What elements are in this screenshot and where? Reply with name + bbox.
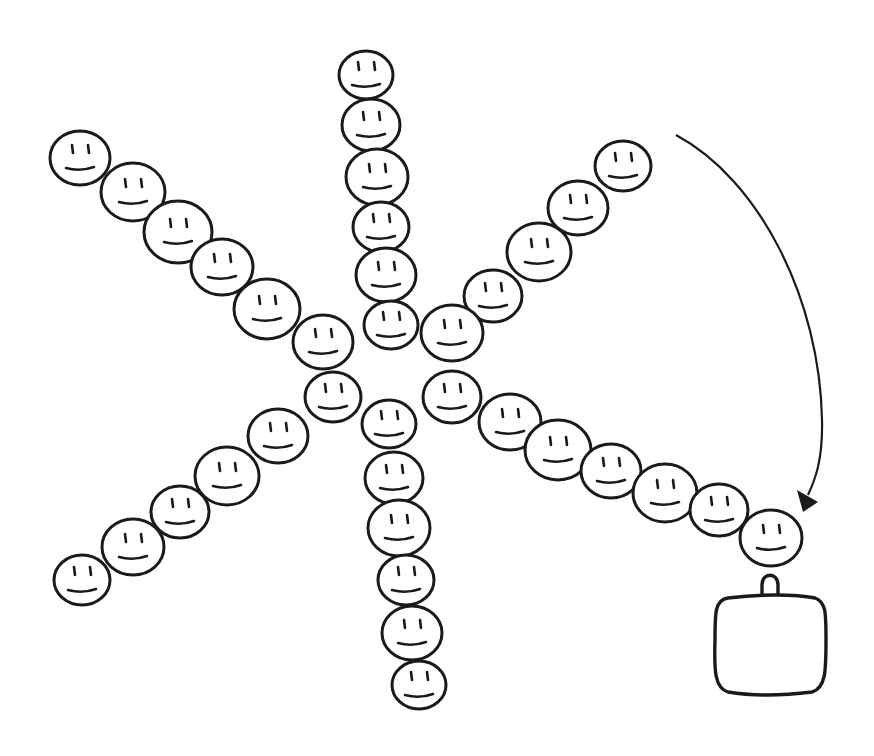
eye xyxy=(125,179,126,187)
eye xyxy=(383,312,384,320)
smiley-face-icon xyxy=(346,149,408,205)
smiley-face-icon xyxy=(234,279,300,339)
eye xyxy=(444,320,445,328)
eye xyxy=(531,239,532,247)
eye xyxy=(172,499,173,507)
eye xyxy=(391,515,392,523)
eye xyxy=(325,384,326,392)
eye xyxy=(631,153,632,161)
eye xyxy=(170,219,171,227)
eye xyxy=(398,567,399,575)
eye xyxy=(404,620,405,628)
sketch-canvas xyxy=(0,0,874,756)
smiley-face-icon xyxy=(356,248,416,302)
eye xyxy=(397,411,398,419)
eye xyxy=(550,437,551,445)
eye xyxy=(657,480,658,488)
arm-lower-left xyxy=(54,372,361,605)
smiley-face-icon xyxy=(633,464,697,522)
eye xyxy=(74,567,75,575)
smiley-face-icon xyxy=(54,555,110,605)
smiley-face-icon xyxy=(50,131,110,185)
arm-upper-left xyxy=(50,131,353,369)
eye xyxy=(420,620,421,628)
eye xyxy=(603,458,604,466)
eye xyxy=(188,499,189,507)
smiley-face-icon xyxy=(102,519,164,575)
eye xyxy=(763,525,764,533)
eye xyxy=(586,195,587,203)
eye xyxy=(141,179,142,187)
arm-up xyxy=(339,51,418,349)
eye xyxy=(427,672,428,680)
eye xyxy=(460,320,461,328)
eye xyxy=(711,497,712,505)
eye xyxy=(727,497,728,505)
eye xyxy=(341,384,342,392)
smiley-face-icon xyxy=(595,141,651,191)
smiley-face-icon xyxy=(378,555,434,605)
eye xyxy=(374,62,375,70)
eye xyxy=(547,239,548,247)
eye xyxy=(141,534,142,542)
eye xyxy=(619,458,620,466)
eye xyxy=(444,384,445,392)
arm-lower-right xyxy=(423,371,802,566)
eye xyxy=(518,409,519,417)
smiley-face-icon xyxy=(423,371,481,423)
eye xyxy=(407,515,408,523)
eye xyxy=(394,262,395,270)
smiley-face-icon xyxy=(248,409,308,463)
eye xyxy=(399,312,400,320)
smiley-face-icon xyxy=(690,484,748,536)
smiley-star xyxy=(50,51,802,709)
eye xyxy=(402,465,403,473)
eye xyxy=(414,567,415,575)
smiley-face-icon xyxy=(392,661,446,709)
eye xyxy=(363,112,364,120)
arm-upper-right xyxy=(421,141,651,361)
eye xyxy=(378,262,379,270)
smiley-face-icon xyxy=(342,99,400,151)
eye xyxy=(369,164,370,172)
eye xyxy=(72,145,73,153)
eye xyxy=(275,296,276,304)
eye xyxy=(90,567,91,575)
eye xyxy=(88,145,89,153)
eye xyxy=(358,62,359,70)
smiley-face-icon xyxy=(353,202,409,252)
curved-arrow xyxy=(676,135,822,495)
eye xyxy=(411,672,412,680)
eye xyxy=(270,423,271,431)
eye xyxy=(331,329,332,337)
eye xyxy=(615,153,616,161)
eye xyxy=(485,283,486,291)
eye xyxy=(566,437,567,445)
smiley-face-icon xyxy=(364,301,418,349)
smiley-face-icon xyxy=(368,500,430,556)
eye xyxy=(779,525,780,533)
eye xyxy=(385,164,386,172)
eye xyxy=(230,254,231,262)
eye xyxy=(125,534,126,542)
eye xyxy=(214,254,215,262)
arrow-head-icon xyxy=(797,490,818,512)
eye xyxy=(379,112,380,120)
eye xyxy=(570,195,571,203)
eye xyxy=(373,214,374,222)
smiley-face-icon xyxy=(382,606,442,660)
eye xyxy=(460,384,461,392)
smiley-face-icon xyxy=(421,305,483,361)
eye xyxy=(502,409,503,417)
eye xyxy=(386,465,387,473)
eye xyxy=(673,480,674,488)
eye xyxy=(315,329,316,337)
eye xyxy=(381,411,382,419)
arm-down xyxy=(362,400,446,709)
smiley-face-icon xyxy=(339,51,393,99)
smiley-face-icon xyxy=(365,452,423,504)
smiley-face-icon xyxy=(362,400,416,448)
eye xyxy=(186,219,187,227)
container-box xyxy=(715,595,826,695)
smiley-face-icon xyxy=(305,372,361,422)
